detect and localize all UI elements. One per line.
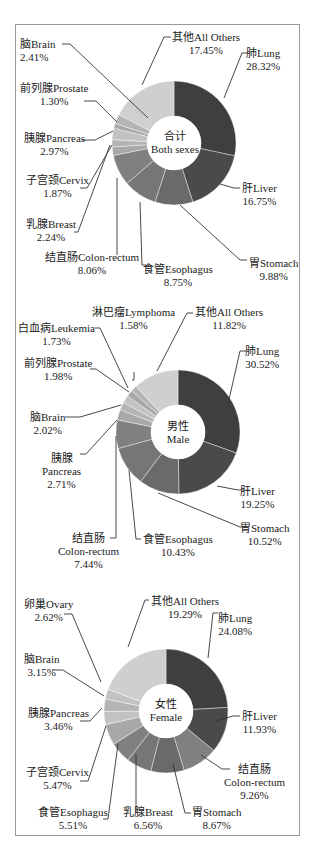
label-male-lymphoma: 淋巴瘤Lymphoma1.58% bbox=[92, 306, 175, 332]
center-label-both: 合计Both sexes bbox=[147, 130, 203, 156]
label-both-brain: 脑Brain2.41% bbox=[20, 38, 55, 64]
label-both-lung: 肺Lung28.32% bbox=[246, 47, 280, 73]
label-male-liver: 肝Liver19.25% bbox=[240, 485, 275, 511]
label-male-stomach: 胃Stomach10.52% bbox=[240, 522, 290, 548]
label-female-pancreas: 胰腺Pancreas3.46% bbox=[28, 707, 89, 733]
label-female-esophagus: 食管Esophagus5.51% bbox=[38, 806, 108, 832]
label-female-lung: 肺Lung24.08% bbox=[218, 612, 252, 638]
label-male-others: 其他All Others11.82% bbox=[195, 306, 263, 332]
label-male-colon: 结直肠Colon-rectum7.44% bbox=[58, 532, 119, 571]
label-both-prostate: 前列腺Prostate1.30% bbox=[20, 82, 88, 108]
label-female-stomach: 胃Stomach8.67% bbox=[192, 806, 242, 832]
label-male-pancreas: 胰腺Pancreas2.71% bbox=[42, 452, 81, 491]
label-female-breast: 乳腺Breast6.56% bbox=[123, 806, 173, 832]
label-both-colon: 结直肠Colon-rectum8.06% bbox=[45, 251, 139, 277]
label-both-cervix: 子宫颈Cervix1.87% bbox=[26, 174, 89, 200]
label-female-colon: 结直肠Colon-rectum9.26% bbox=[224, 763, 285, 802]
label-male-esophagus: 食管Esophagus10.43% bbox=[143, 533, 213, 559]
label-male-brain: 脑Brain2.02% bbox=[30, 411, 65, 437]
label-male-leukemia: 白血病Leukemia1.73% bbox=[18, 322, 95, 348]
label-both-esophagus: 食管Esophagus8.75% bbox=[143, 263, 213, 289]
label-female-brain: 脑Brain3.15% bbox=[24, 653, 59, 679]
label-female-liver: 肝Liver11.93% bbox=[242, 710, 277, 736]
label-both-breast: 乳腺Breast2.24% bbox=[26, 218, 76, 244]
label-both-others: 其他All Others17.45% bbox=[172, 31, 240, 57]
label-male-lung: 肺Lung30.52% bbox=[245, 345, 279, 371]
center-label-male: 男性Male bbox=[154, 420, 202, 446]
label-female-ovary: 卵巢Ovary2.62% bbox=[24, 598, 74, 624]
label-male-prostate: 前列腺Prostate1.98% bbox=[24, 357, 92, 383]
label-female-cervix: 子宫颈Cervix5.47% bbox=[26, 766, 89, 792]
label-both-pancreas: 胰腺Pancreas2.97% bbox=[24, 132, 85, 158]
label-female-others: 其他All Others19.29% bbox=[151, 595, 219, 621]
label-both-liver: 肝Liver16.75% bbox=[242, 182, 277, 208]
center-label-female: 女性Female bbox=[138, 698, 194, 724]
label-both-stomach: 胃Stomach9.88% bbox=[249, 257, 299, 283]
